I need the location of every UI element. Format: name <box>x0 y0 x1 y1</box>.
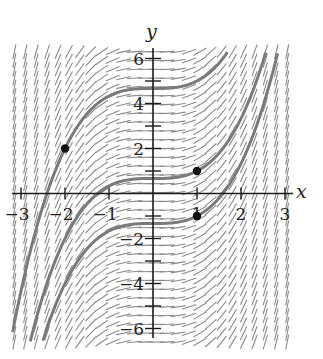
slope-segment <box>182 340 196 345</box>
slope-segment <box>205 188 216 198</box>
slope-segment <box>182 120 196 125</box>
slope-segment <box>205 126 216 136</box>
slope-segment <box>182 129 196 134</box>
slope-segment <box>106 313 120 319</box>
slope-segment <box>106 128 120 134</box>
slope-segment <box>182 137 196 142</box>
slope-segment <box>106 172 120 178</box>
slope-segment <box>205 100 216 110</box>
slope-segment <box>86 117 97 128</box>
slope-segment <box>86 152 97 163</box>
slope-segment <box>106 110 120 116</box>
slope-segment <box>182 181 196 186</box>
slope-segment <box>205 232 216 242</box>
slope-segment <box>86 178 97 189</box>
slope-segment <box>106 234 120 240</box>
slope-segment <box>106 163 120 169</box>
slope-segment <box>205 179 216 189</box>
slope-segment <box>106 286 120 292</box>
slope-segment <box>205 223 216 233</box>
slope-segment <box>106 339 120 345</box>
slope-segment <box>205 328 216 338</box>
y-tick-label: 2 <box>133 139 144 159</box>
slope-segment <box>86 284 97 295</box>
slope-segment <box>205 214 216 224</box>
slope-segment <box>86 64 97 75</box>
y-tick-label: −4 <box>119 274 144 294</box>
slope-segment <box>182 146 196 151</box>
slope-segment <box>182 243 196 248</box>
slope-segment <box>106 84 120 90</box>
slope-segment <box>205 311 216 321</box>
slope-segment <box>182 252 196 257</box>
slope-segment <box>182 164 196 169</box>
slope-segment <box>182 93 196 98</box>
slope-segment <box>205 91 216 101</box>
slope-segment <box>86 82 97 93</box>
slope-segment <box>182 49 196 54</box>
initial-point <box>61 144 69 152</box>
slope-segment <box>205 276 216 286</box>
x-tick-label: 3 <box>280 204 291 224</box>
slope-segment <box>86 134 97 145</box>
slope-segment <box>205 249 216 259</box>
slope-segment <box>205 82 216 92</box>
slope-segment <box>106 278 120 284</box>
slope-segment <box>205 240 216 250</box>
slope-segment <box>182 331 196 336</box>
x-tick-label: −2 <box>48 204 73 224</box>
slope-segment <box>205 302 216 312</box>
slope-segment <box>86 328 97 339</box>
slope-segment <box>205 319 216 329</box>
slope-segment <box>205 170 216 180</box>
slope-segment <box>86 293 97 304</box>
y-axis-label: y <box>145 20 157 42</box>
slope-segment <box>86 319 97 330</box>
x-axis-label: x <box>296 180 307 202</box>
slope-segment <box>182 67 196 72</box>
slope-segment <box>205 144 216 154</box>
slope-field-chart: −3−2−1123−6−4−2246 x y <box>0 0 323 359</box>
initial-point <box>193 212 201 220</box>
slope-segment <box>106 190 120 196</box>
slope-segment <box>106 66 120 72</box>
slope-segment <box>86 170 97 181</box>
slope-segment <box>86 73 97 84</box>
slope-segment <box>205 117 216 127</box>
slope-segment <box>205 47 216 57</box>
slope-segment <box>86 258 97 269</box>
slope-segment <box>182 111 196 116</box>
y-tick-label: −6 <box>119 319 144 339</box>
slope-segment <box>182 313 196 318</box>
slope-segment <box>106 242 120 248</box>
slope-segment <box>86 90 97 101</box>
slope-segment <box>106 146 120 152</box>
slope-segment <box>86 337 97 348</box>
slope-segment <box>182 269 196 274</box>
slope-segment <box>106 330 120 336</box>
slope-segment <box>160 245 175 246</box>
slope-field-segments <box>13 44 289 349</box>
slope-segment <box>86 126 97 137</box>
slope-segment <box>106 269 120 275</box>
slope-segment <box>106 251 120 257</box>
slope-segment <box>182 225 196 230</box>
slope-segment <box>182 296 196 301</box>
y-tick-label: −2 <box>119 229 144 249</box>
slope-segment <box>205 56 216 66</box>
slope-segment <box>106 119 120 125</box>
slope-segment <box>182 234 196 239</box>
slope-segment <box>205 267 216 277</box>
slope-segment <box>205 108 216 118</box>
slope-segment <box>86 222 97 233</box>
x-tick-label: 2 <box>236 204 247 224</box>
slope-segment <box>160 51 175 52</box>
slope-segment <box>106 260 120 266</box>
slope-segment <box>86 275 97 286</box>
slope-segment <box>86 161 97 172</box>
slope-segment <box>182 304 196 309</box>
initial-point <box>193 167 201 175</box>
slope-segment <box>182 155 196 160</box>
slope-segment <box>205 293 216 303</box>
y-tick-label: 4 <box>133 94 144 114</box>
